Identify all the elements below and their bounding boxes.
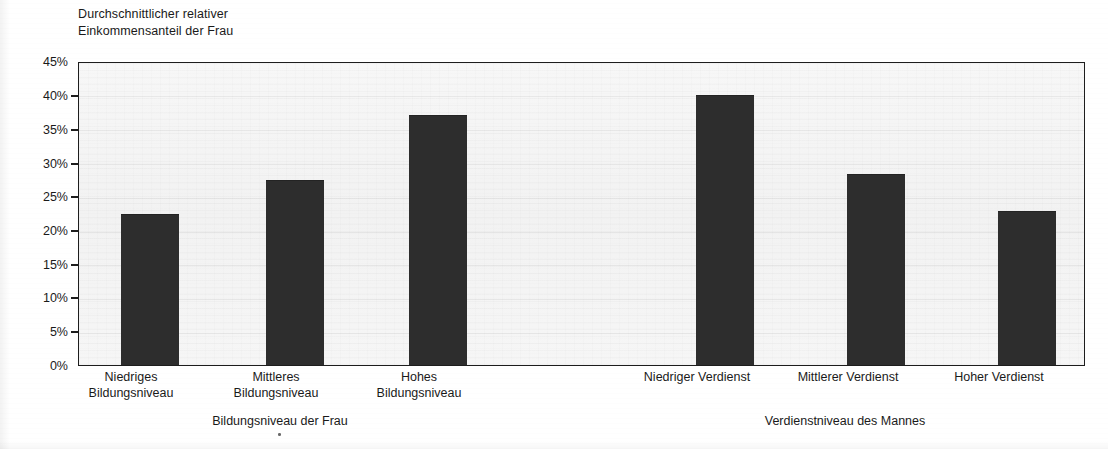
y-tick-mark-15	[71, 264, 78, 266]
x-tick-label-mittlerer-verdienst: Mittlerer Verdienst	[779, 370, 917, 386]
y-axis-title: Durchschnittlicher relativer Einkommensa…	[78, 6, 233, 40]
x-tick-line-1: Hoher Verdienst	[930, 370, 1068, 386]
x-tick-line-2: Bildungsniveau	[204, 386, 348, 402]
y-tick-label-25: 25%	[24, 191, 68, 203]
y-tick-mark-5	[71, 331, 78, 333]
x-axis-title-bildungsniveau-der-frau: Bildungsniveau der Frau	[135, 414, 425, 429]
x-tick-line-1: Mittleres	[204, 370, 348, 386]
bar-mittleres-bildungsniveau	[266, 180, 324, 365]
y-tick-label-45: 45%	[24, 56, 68, 68]
bar-niedriges-bildungsniveau	[121, 214, 179, 365]
bar-hohes-bildungsniveau	[409, 115, 467, 365]
gridline-20	[79, 232, 1084, 233]
y-tick-mark-25	[71, 196, 78, 198]
x-tick-line-1: Mittlerer Verdienst	[779, 370, 917, 386]
scan-dot-artifact	[278, 433, 281, 436]
bar-mittlerer-verdienst	[847, 174, 905, 365]
bar-niedriger-verdienst	[696, 95, 754, 366]
x-tick-line-1: Niedriger Verdienst	[628, 370, 766, 386]
y-tick-label-10: 10%	[24, 292, 68, 304]
gridline-15	[79, 265, 1084, 266]
x-tick-label-niedriges-bildungsniveau: Niedriges Bildungsniveau	[59, 370, 203, 401]
x-tick-line-2: Bildungsniveau	[347, 386, 491, 402]
gridline-30	[79, 164, 1084, 165]
gridline-25	[79, 198, 1084, 199]
x-tick-label-hohes-bildungsniveau: Hohes Bildungsniveau	[347, 370, 491, 401]
y-tick-label-35: 35%	[24, 124, 68, 136]
scan-edge-shadow-bottom	[0, 441, 1108, 449]
y-tick-label-20: 20%	[24, 225, 68, 237]
x-tick-line-1: Niedriges	[59, 370, 203, 386]
bar-hoher-verdienst	[998, 211, 1056, 365]
y-tick-label-40: 40%	[24, 90, 68, 102]
x-tick-label-hoher-verdienst: Hoher Verdienst	[930, 370, 1068, 386]
y-tick-label-5: 5%	[24, 326, 68, 338]
chart-figure: Durchschnittlicher relativer Einkommensa…	[0, 0, 1108, 449]
y-tick-label-15: 15%	[24, 259, 68, 271]
x-tick-line-2: Bildungsniveau	[59, 386, 203, 402]
x-tick-line-1: Hohes	[347, 370, 491, 386]
y-tick-label-30: 30%	[24, 158, 68, 170]
y-tick-mark-35	[71, 129, 78, 131]
gridline-40	[79, 96, 1084, 97]
y-tick-mark-30	[71, 163, 78, 165]
scan-edge-shadow-left	[0, 0, 10, 449]
y-tick-mark-40	[71, 95, 78, 97]
x-tick-label-mittleres-bildungsniveau: Mittleres Bildungsniveau	[204, 370, 348, 401]
y-tick-mark-10	[71, 297, 78, 299]
y-axis-title-line-2: Einkommensanteil der Frau	[78, 23, 233, 40]
y-tick-mark-20	[71, 230, 78, 232]
gridline-10	[79, 299, 1084, 300]
x-tick-label-niedriger-verdienst: Niedriger Verdienst	[628, 370, 766, 386]
y-axis-title-line-1: Durchschnittlicher relativer	[78, 6, 233, 23]
plot-texture	[79, 63, 1084, 365]
gridline-35	[79, 130, 1084, 131]
gridline-5	[79, 333, 1084, 334]
x-axis-title-verdienstniveau-des-mannes: Verdienstniveau des Mannes	[700, 414, 990, 429]
plot-area	[78, 62, 1085, 366]
